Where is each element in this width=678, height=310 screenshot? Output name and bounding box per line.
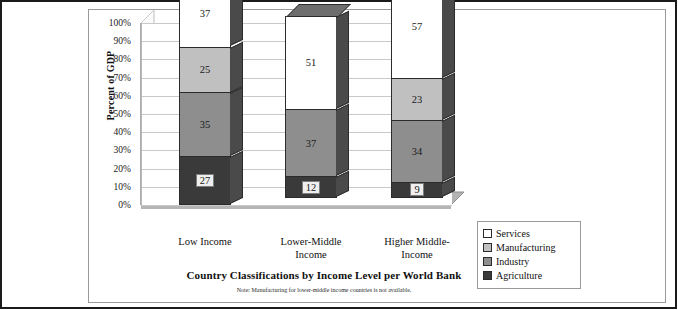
x-axis-category-label: Low Income [150,236,260,249]
bar-segment-value: 35 [200,119,211,130]
x-axis-category-line: Income [256,249,366,262]
plot-area: 100% 90% 80% 70% 60% 50% 40% 30% 20% 10%… [89,10,479,235]
y-axis-title: Percent of GDP [105,31,116,141]
figure-frame: 100% 90% 80% 70% 60% 50% 40% 30% 20% 10%… [0,0,677,309]
legend-item[interactable]: Services [483,228,576,239]
legend-swatch-icon [483,271,492,280]
bar-segment[interactable]: 35 [179,92,231,156]
bar-segment-side-face [230,41,243,92]
bar-segment[interactable]: 12 [285,176,337,198]
x-axis-category-label: Lower-MiddleIncome [256,236,366,261]
bar-segment-value: 9 [410,183,423,196]
bar-segment-side-face [336,11,349,109]
bar-segment[interactable]: 9 [391,182,443,198]
bar-segment[interactable]: 51 [285,16,337,109]
bar-segment-value: 12 [302,181,321,194]
legend-item[interactable]: Industry [483,256,576,267]
bar-segment-side-face [336,104,349,177]
bar-segment-value: 23 [412,94,423,105]
legend-label: Services [496,228,530,239]
bar-segment-side-face [442,73,455,120]
bar-segment-side-face [230,151,243,204]
bar-segment-side-face [442,0,455,78]
x-axis-category-line: Low Income [150,236,260,249]
bar-segment-side-face [230,87,243,156]
bar-segment-side-face [230,0,243,47]
legend-label: Manufacturing [496,242,555,253]
chart-container: 100% 90% 80% 70% 60% 50% 40% 30% 20% 10%… [88,9,666,303]
bar-segment-side-face [442,114,455,181]
bar-segment[interactable]: 37 [285,109,337,176]
bar-segment-value: 57 [412,21,423,32]
legend-label: Agriculture [496,270,542,281]
bar-segment[interactable]: 34 [391,120,443,182]
bar-column[interactable]: 5723349 [391,0,443,198]
bar-segment[interactable]: 23 [391,78,443,120]
bar-segment-value: 37 [306,138,317,149]
bar-segment-value: 25 [200,64,211,75]
bar-column[interactable]: 37253527 [179,0,231,205]
bar-segment[interactable]: 27 [179,156,231,205]
x-axis-category-line: Income [362,249,472,262]
x-axis-category-line: Higher Middle- [362,236,472,249]
bar-segment[interactable]: 37 [179,0,231,47]
gridline-0 [142,205,452,206]
bar-segment-value: 37 [200,8,211,19]
bar-segment[interactable]: 57 [391,0,443,78]
x-axis-category-label: Higher Middle-Income [362,236,472,261]
legend-swatch-icon [483,243,492,252]
bar-column[interactable]: 513712 [285,16,337,198]
chart-legend: ServicesManufacturingIndustryAgriculture [477,221,581,289]
y-tick-label: 30% [89,145,131,155]
bar-segment-value: 34 [412,146,423,157]
y-tick-label: 10% [89,182,131,192]
legend-swatch-icon [483,257,492,266]
legend-swatch-icon [483,229,492,238]
legend-item[interactable]: Manufacturing [483,242,576,253]
x-axis-category-line: Lower-Middle [256,236,366,249]
bar-segment-value: 51 [306,57,317,68]
y-tick-label: 0% [89,200,131,210]
x-axis-labels: Low IncomeLower-MiddleIncomeHigher Middl… [89,236,479,270]
legend-label: Industry [496,256,529,267]
legend-item[interactable]: Agriculture [483,270,576,281]
y-tick-label: 100% [89,18,131,28]
bar-segment[interactable]: 25 [179,47,231,93]
y-tick-label: 20% [89,164,131,174]
bar-segment-value: 27 [196,174,215,187]
